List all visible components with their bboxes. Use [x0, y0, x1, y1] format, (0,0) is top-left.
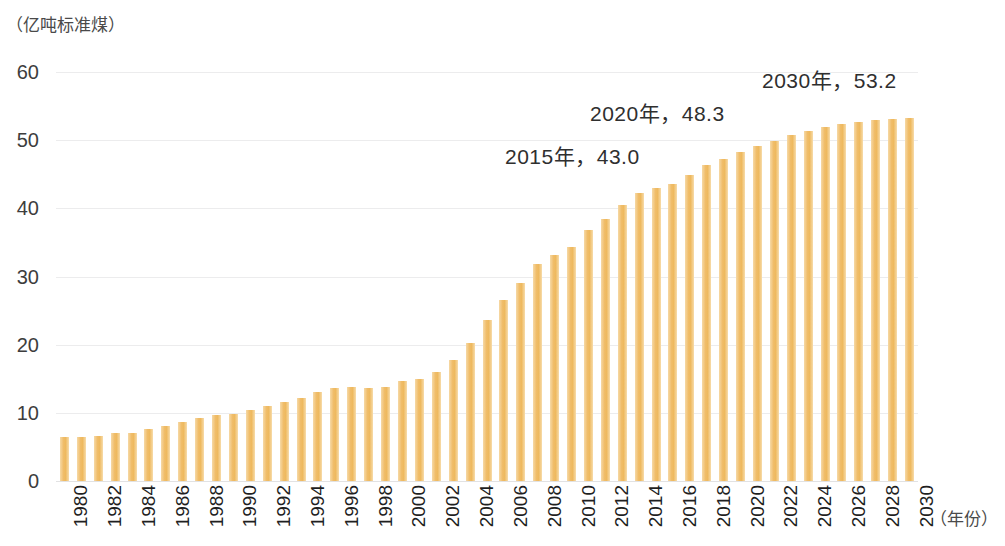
- bar-1989: [212, 415, 221, 481]
- y-tick-label-60: 60: [0, 62, 39, 82]
- bar-1990: [229, 414, 238, 481]
- x-tick-label-2010: 2010: [579, 485, 598, 527]
- bar-2026: [837, 124, 846, 481]
- bar-1987: [178, 422, 187, 481]
- bar-2000: [398, 381, 407, 481]
- bar-1980: [60, 437, 69, 481]
- bar-2006: [499, 300, 508, 481]
- x-tick-label-1986: 1986: [173, 485, 192, 527]
- bar-1991: [246, 410, 255, 481]
- bar-2004: [466, 343, 475, 481]
- x-tick-label-2018: 2018: [714, 485, 733, 527]
- x-tick-label-1980: 1980: [71, 485, 90, 527]
- bar-1985: [144, 429, 153, 481]
- bar-2001: [415, 379, 424, 481]
- bar-2021: [753, 146, 762, 481]
- x-tick-label-2014: 2014: [646, 485, 665, 527]
- x-tick-label-1992: 1992: [274, 485, 293, 527]
- bar-2019: [719, 159, 728, 481]
- bar-1992: [263, 406, 272, 481]
- bar-2017: [685, 175, 694, 481]
- bar-series: [56, 72, 918, 481]
- bar-2010: [567, 247, 576, 481]
- x-tick-label-1984: 1984: [139, 485, 158, 527]
- annotation-2020: 2020年，48.3: [590, 97, 725, 127]
- y-tick-label-50: 50: [0, 130, 39, 150]
- x-tick-label-2026: 2026: [849, 485, 868, 527]
- bar-1986: [161, 426, 170, 481]
- x-tick-label-2000: 2000: [409, 485, 428, 527]
- bar-1982: [94, 436, 103, 481]
- bar-1998: [364, 388, 373, 481]
- annotation-2030: 2030年，53.2: [762, 64, 897, 94]
- y-tick-label-10: 10: [0, 403, 39, 423]
- bar-2008: [533, 264, 542, 481]
- y-tick-label-0: 0: [0, 471, 39, 491]
- bar-2013: [618, 205, 627, 481]
- y-tick-label-40: 40: [0, 198, 39, 218]
- bar-2012: [601, 219, 610, 481]
- bar-2023: [787, 135, 796, 481]
- bar-2024: [804, 131, 813, 481]
- bar-2029: [888, 119, 897, 481]
- x-tick-label-2022: 2022: [781, 485, 800, 527]
- energy-consumption-bar-chart: （亿吨标准煤） 0102030405060 198019821984198619…: [0, 0, 1005, 546]
- y-tick-label-30: 30: [0, 267, 39, 287]
- bar-2003: [449, 360, 458, 481]
- bar-2020: [736, 152, 745, 481]
- bar-2027: [854, 122, 863, 481]
- bar-2025: [821, 127, 830, 481]
- x-tick-label-1998: 1998: [376, 485, 395, 527]
- x-tick-label-2004: 2004: [477, 485, 496, 527]
- bar-2014: [635, 193, 644, 481]
- bar-2009: [550, 255, 559, 481]
- x-axis-tick-labels: 1980198219841986198819901992199419961998…: [56, 481, 918, 546]
- x-tick-label-1994: 1994: [308, 485, 327, 527]
- bar-2030: [905, 118, 914, 481]
- bar-2022: [770, 141, 779, 481]
- bar-2015: [652, 188, 661, 481]
- bar-1981: [77, 437, 86, 481]
- x-axis-unit-caption: （年份）: [930, 505, 998, 530]
- bar-2011: [584, 230, 593, 481]
- bar-1993: [280, 402, 289, 481]
- y-axis-unit-caption: （亿吨标准煤）: [6, 11, 125, 36]
- bar-2016: [668, 184, 677, 481]
- x-tick-label-2020: 2020: [748, 485, 767, 527]
- x-tick-label-1990: 1990: [240, 485, 259, 527]
- y-tick-label-20: 20: [0, 335, 39, 355]
- annotation-2015: 2015年，43.0: [505, 140, 640, 170]
- x-tick-label-1982: 1982: [105, 485, 124, 527]
- bar-1999: [381, 387, 390, 481]
- x-tick-label-2024: 2024: [815, 485, 834, 527]
- x-tick-label-1996: 1996: [342, 485, 361, 527]
- x-tick-label-2012: 2012: [612, 485, 631, 527]
- bar-2018: [702, 165, 711, 481]
- bar-1994: [297, 398, 306, 481]
- bar-2005: [483, 320, 492, 481]
- bar-2002: [432, 372, 441, 481]
- bar-1995: [313, 392, 322, 481]
- bar-1984: [128, 433, 137, 481]
- bar-1996: [330, 388, 339, 481]
- x-tick-label-1988: 1988: [207, 485, 226, 527]
- x-tick-label-2008: 2008: [545, 485, 564, 527]
- bar-2007: [516, 283, 525, 481]
- bar-1997: [347, 387, 356, 481]
- x-tick-label-2028: 2028: [883, 485, 902, 527]
- x-tick-label-2002: 2002: [443, 485, 462, 527]
- x-tick-label-2006: 2006: [511, 485, 530, 527]
- x-tick-label-2016: 2016: [680, 485, 699, 527]
- bar-2028: [871, 120, 880, 481]
- bar-1988: [195, 418, 204, 481]
- bar-1983: [111, 433, 120, 481]
